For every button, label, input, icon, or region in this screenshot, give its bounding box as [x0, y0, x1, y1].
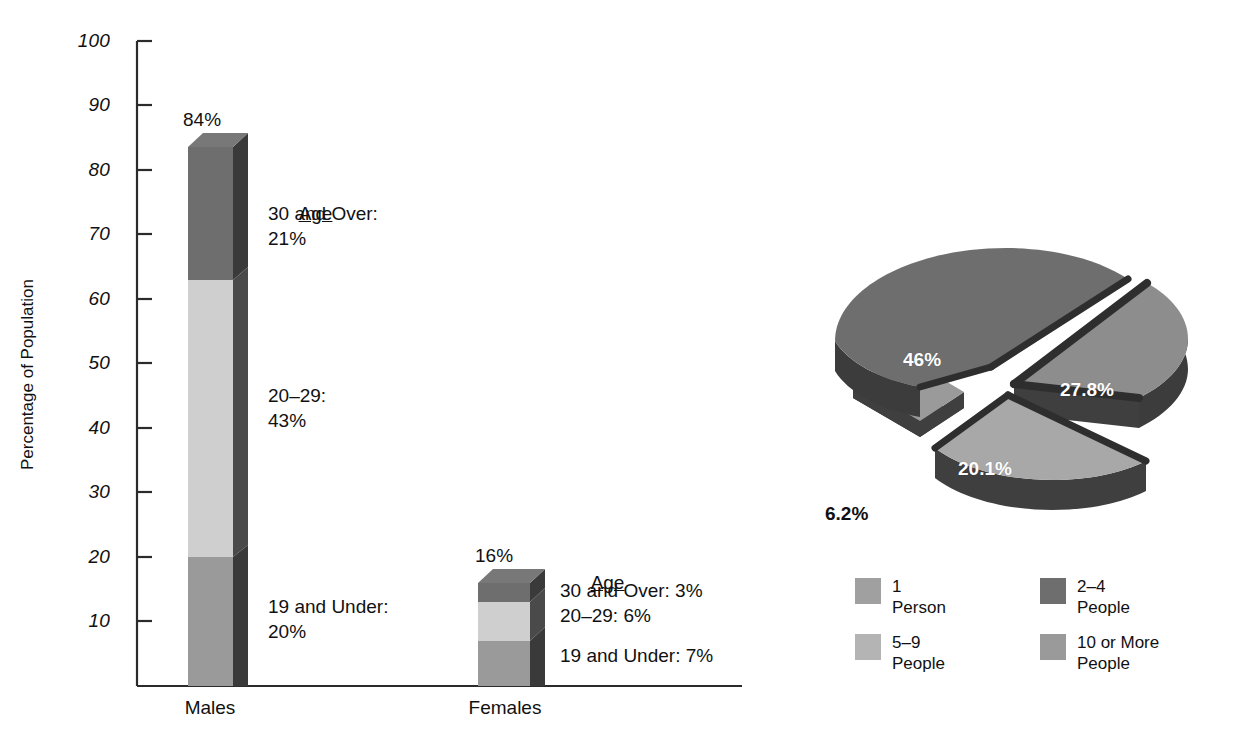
pie-chart: Household Size: [760, 0, 1242, 743]
females-annotation-under19: 19 and Under: 7%: [560, 643, 713, 668]
females-annotation-over30: 30 and Over: 3%: [560, 578, 703, 603]
legend-item-1-person[interactable]: 1 Person: [855, 576, 1040, 632]
pie-slice-label-46: 46%: [903, 349, 941, 371]
legend-label-10-or-more-people: 10 or More People: [1077, 632, 1159, 674]
figure-root: Percentage of Population 100 90 80 70 60…: [0, 0, 1242, 743]
legend-item-2-4-people[interactable]: 2–4 People: [1040, 576, 1225, 632]
females-total-label: 16%: [475, 545, 513, 567]
legend-item-10-or-more-people[interactable]: 10 or More People: [1040, 632, 1225, 688]
bar-chart: Percentage of Population 100 90 80 70 60…: [0, 0, 760, 743]
legend-label-5-9-people: 5–9 People: [892, 632, 945, 674]
females-annotation-2029: 20–29: 6%: [560, 603, 651, 628]
x-tick-label-females: Females: [455, 697, 555, 719]
legend-item-5-9-people[interactable]: 5–9 People: [855, 632, 1040, 688]
legend-swatch-icon-1-person: [855, 578, 881, 604]
legend-label-1-person: 1 Person: [892, 576, 946, 618]
pie-legend: 1 Person 2–4 People 5–9 People 10 or Mor…: [855, 576, 1215, 688]
legend-swatch-icon-5-9-people: [855, 634, 881, 660]
females-bar: [0, 0, 760, 743]
legend-swatch-icon-2-4-people: [1040, 578, 1066, 604]
pie-slice-label-20-1: 20.1%: [958, 458, 1012, 480]
legend-swatch-icon-10-or-more-people: [1040, 634, 1066, 660]
pie-slice-label-6-2: 6.2%: [825, 503, 868, 525]
legend-label-2-4-people: 2–4 People: [1077, 576, 1130, 618]
x-tick-label-males: Males: [160, 697, 260, 719]
pie-slice-label-27-8: 27.8%: [1060, 379, 1114, 401]
